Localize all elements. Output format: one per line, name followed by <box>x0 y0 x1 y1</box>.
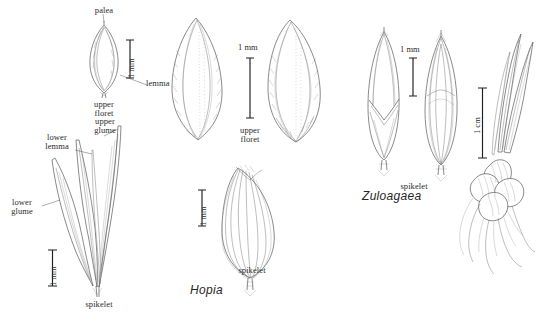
genus-label-hopia: Hopia <box>190 283 223 297</box>
genus-label-zuloagaea: Zuloagaea <box>362 189 421 203</box>
figure-spikelet-hopia <box>222 165 275 296</box>
figure-rhizome-zuloagaea <box>460 34 535 274</box>
scale-label-right-spikelet: 1 mm <box>400 44 420 54</box>
figure-upper-floret-left <box>90 14 147 98</box>
lemma-label: lemma <box>146 79 190 89</box>
scale-label-left-floret: 1 mm <box>126 58 136 78</box>
figure-upper-floret-hopia-right <box>268 20 320 142</box>
scale-label-center-spikelet: 1 mm <box>198 206 208 226</box>
spikelet-caption-left: spikelet <box>72 300 126 310</box>
figure-spikelet-zuloagaea-a <box>368 27 399 176</box>
scale-label-center-floret: 1 mm <box>238 42 258 52</box>
upper-glume-label-line2: glume <box>80 126 130 136</box>
palea-label: palea <box>82 6 126 16</box>
illustration-plate: palea lemma upper floret 1 mm 1 mm upper… <box>0 0 540 314</box>
scalebar-right-spikelet <box>409 58 417 96</box>
lower-lemma-label-line2: lemma <box>34 142 80 152</box>
figure-spikelet-zuloagaea-b <box>425 30 457 181</box>
scale-label-left-spikelet: 1 mm <box>48 266 58 286</box>
scale-label-right-rhizome: 1 cm <box>472 117 482 134</box>
lower-glume-label-line2: glume <box>0 207 44 217</box>
spikelet-caption-center: spikelet <box>226 266 278 276</box>
scalebar-center-floret <box>246 58 254 118</box>
upper-floret-caption-center-line2: floret <box>224 135 276 145</box>
